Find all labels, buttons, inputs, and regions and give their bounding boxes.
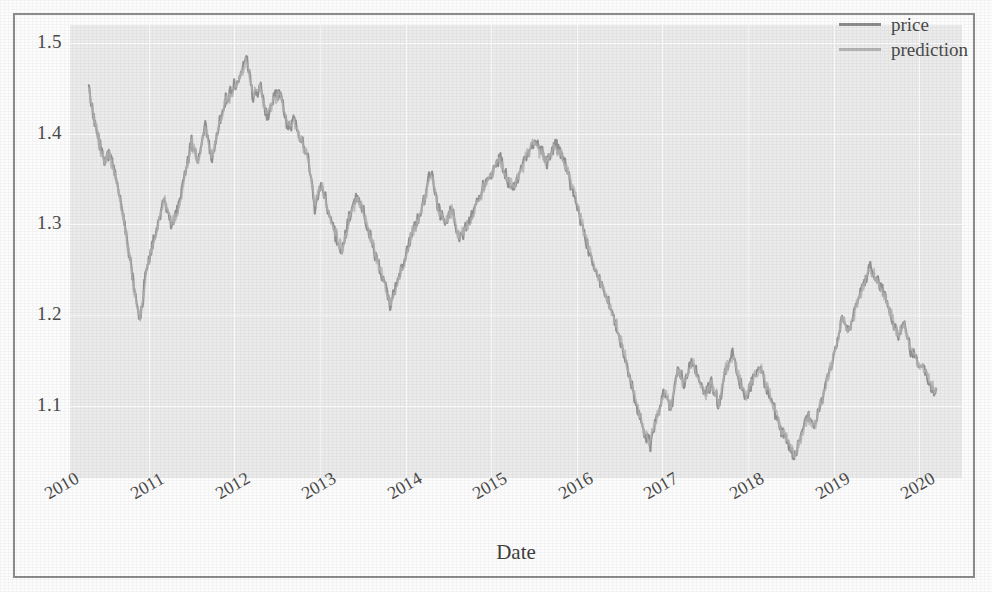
- series-line-price: [89, 56, 936, 459]
- legend-swatch-prediction: [839, 48, 881, 51]
- legend-label-price: price: [891, 14, 929, 36]
- figure-canvas: 1.11.21.31.41.5 201020112012201320142015…: [0, 0, 992, 592]
- legend-item-prediction: prediction: [839, 37, 968, 62]
- legend: price prediction: [833, 8, 974, 66]
- y-tick-label: 1.5: [10, 31, 62, 53]
- legend-swatch-price: [839, 23, 881, 26]
- y-tick-label: 1.4: [10, 122, 62, 144]
- legend-item-price: price: [839, 12, 968, 37]
- y-tick-label: 1.1: [10, 394, 62, 416]
- plot-area: [70, 25, 962, 478]
- legend-label-prediction: prediction: [891, 39, 968, 61]
- series-plot: [70, 25, 962, 478]
- x-axis-title: Date: [70, 540, 962, 565]
- y-axis-tick-labels: 1.11.21.31.41.5: [6, 25, 62, 478]
- y-tick-label: 1.2: [10, 303, 62, 325]
- series-line-prediction: [89, 58, 936, 457]
- y-tick-label: 1.3: [10, 212, 62, 234]
- x-axis-tick-labels: 2010201120122013201420152016201720182019…: [70, 478, 962, 538]
